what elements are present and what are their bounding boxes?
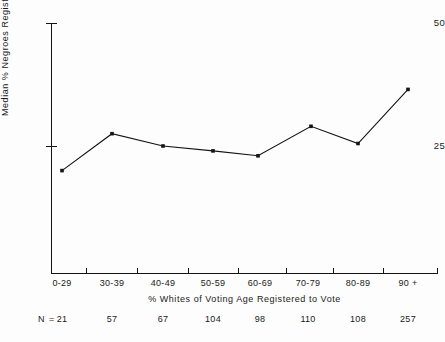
data-point-30-39	[110, 132, 114, 136]
series-line	[62, 89, 408, 170]
data-point-90 +	[406, 88, 410, 92]
data-point-70-79	[309, 125, 313, 129]
data-point-60-69	[256, 154, 260, 158]
data-point-40-49	[161, 144, 165, 148]
data-series-plot	[0, 0, 445, 342]
series-markers	[60, 88, 410, 173]
data-point-0-29	[60, 169, 64, 173]
data-point-80-89	[356, 142, 360, 146]
chart-figure: 50 25 Median % Negroes Registered 0-29 3…	[0, 0, 445, 342]
data-point-50-59	[211, 149, 215, 153]
